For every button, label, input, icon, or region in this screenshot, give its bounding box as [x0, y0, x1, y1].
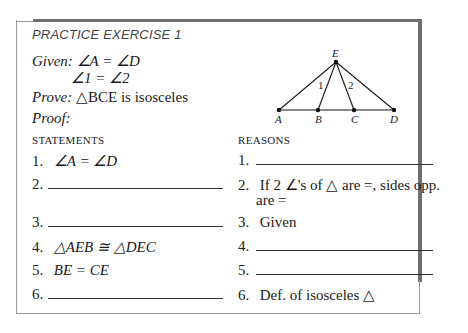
reason-blank-1[interactable]: [256, 164, 433, 165]
row-number: 4.: [238, 238, 256, 255]
point-A: [277, 108, 281, 112]
point-E: [334, 60, 338, 64]
row-number: 4.: [32, 239, 50, 256]
angle-1-label: 1: [318, 79, 324, 91]
row-number: 2.: [238, 177, 256, 194]
reason-text: If 2 ∠'s of △ are =, sides opp.: [260, 177, 440, 193]
row-number: 3.: [238, 214, 256, 231]
reason-row-5: 5.: [238, 262, 256, 279]
statement-row-3: 3.: [32, 214, 50, 231]
row-number: 2.: [32, 176, 50, 193]
reason-row-1: 1.: [238, 152, 256, 169]
reason-text-continued: are =: [256, 192, 287, 208]
row-number: 6.: [238, 287, 256, 304]
statement-blank-2[interactable]: [48, 188, 223, 189]
statement-row-4: 4. △AEB ≅ △DEC: [32, 238, 156, 256]
label-B: B: [315, 113, 322, 125]
statement-text: △AEB ≅ △DEC: [54, 239, 156, 255]
row-number: 1.: [32, 153, 50, 170]
statement-row-6: 6.: [32, 286, 50, 303]
point-B: [316, 108, 320, 112]
statement-row-1: 1. ∠A = ∠D: [32, 152, 117, 170]
statement-row-2: 2.: [32, 176, 50, 193]
statement-row-5: 5. BE = CE: [32, 262, 109, 279]
row-number: 5.: [238, 262, 256, 279]
label-D: D: [389, 113, 398, 125]
reason-row-2-continued: are =: [256, 192, 287, 209]
statement-text: ∠A = ∠D: [54, 153, 117, 169]
statement-text: BE = CE: [54, 262, 109, 278]
statements-header: STATEMENTS: [32, 134, 104, 146]
row-number: 5.: [32, 262, 50, 279]
reasons-header: REASONS: [238, 134, 290, 146]
reason-text: Given: [260, 214, 297, 230]
reason-blank-5[interactable]: [256, 274, 433, 275]
reason-row-3: 3. Given: [238, 214, 296, 231]
reason-row-4: 4.: [238, 238, 256, 255]
reason-row-6: 6. Def. of isosceles △: [238, 286, 375, 304]
point-C: [352, 108, 356, 112]
label-E: E: [331, 47, 339, 59]
statement-blank-3[interactable]: [48, 226, 223, 227]
reason-text: Def. of isosceles △: [260, 287, 375, 303]
statement-blank-6[interactable]: [48, 298, 223, 299]
label-A: A: [274, 113, 282, 125]
row-number: 6.: [32, 286, 50, 303]
label-C: C: [351, 113, 359, 125]
row-number: 1.: [238, 152, 256, 169]
angle-2-label: 2: [348, 79, 354, 91]
point-D: [392, 108, 396, 112]
reason-blank-4[interactable]: [256, 250, 433, 251]
row-number: 3.: [32, 214, 50, 231]
